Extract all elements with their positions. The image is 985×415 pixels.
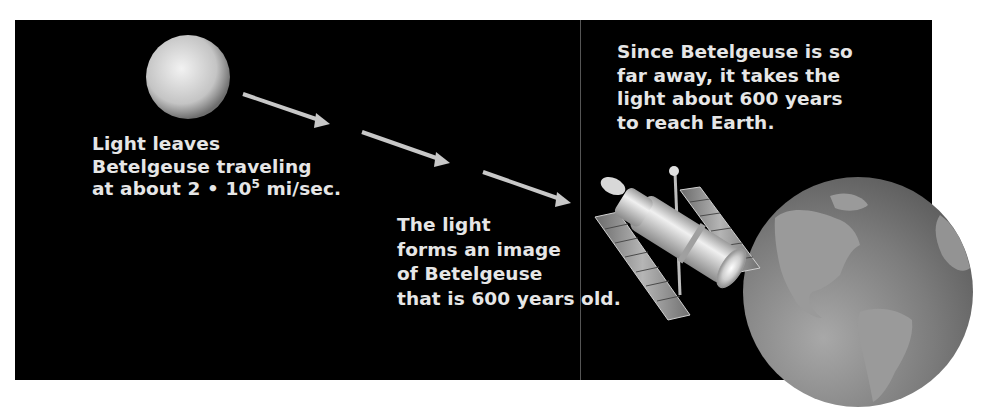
arrow-icon [483,172,571,207]
exponent: 5 [251,177,259,191]
caption-line: light about 600 years [617,88,843,109]
caption-line: forms an image [397,239,561,260]
caption-line: Light leaves [92,133,220,154]
caption-travel-time: Since Betelgeuse is so far away, it take… [617,40,853,134]
caption-line: far away, it takes the [617,65,840,86]
caption-line: Since Betelgeuse is so [617,41,853,62]
caption-image-age: The light forms an image of Betelgeuse t… [397,213,621,311]
arrow-icon [243,94,330,128]
arrow-icon [362,132,450,167]
caption-light-leaves: Light leaves Betelgeuse traveling at abo… [92,133,341,201]
caption-line: The light [397,214,491,235]
caption-line: mi/sec. [260,178,341,199]
earth-globe-icon [743,177,973,407]
caption-line: to reach Earth. [617,112,775,133]
caption-line: that is 600 years old. [397,288,621,309]
caption-line: at about 2 • 10 [92,178,251,199]
caption-line: of Betelgeuse [397,263,542,284]
star-icon [146,35,230,119]
caption-line: Betelgeuse traveling [92,156,312,177]
